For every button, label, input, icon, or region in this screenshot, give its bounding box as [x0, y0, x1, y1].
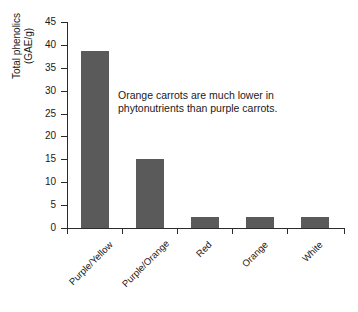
y-tick-mark: [61, 205, 67, 206]
x-axis-label-purple-yellow: Purple/Yellow: [65, 239, 115, 289]
y-tick-label: 0: [28, 223, 56, 233]
y-tick-label: 25: [28, 109, 56, 119]
y-tick-label: 45: [28, 17, 56, 27]
bar-white[interactable]: [301, 217, 329, 228]
bar-purple-orange[interactable]: [136, 159, 164, 228]
x-axis-label-white: White: [285, 239, 325, 279]
bar-purple-yellow[interactable]: [81, 51, 109, 228]
x-tick-mark: [287, 229, 288, 234]
x-axis-label-orange: Orange: [227, 239, 270, 282]
y-tick-label: 5: [28, 200, 56, 210]
chart-annotation-line-1: Orange carrots are much lower in: [118, 89, 328, 102]
x-axis-line: [67, 228, 345, 229]
y-tick-mark: [61, 68, 67, 69]
bar-red[interactable]: [191, 217, 219, 228]
x-axis-label-purple-orange: Purple/Orange: [120, 239, 170, 289]
y-tick-mark: [61, 114, 67, 115]
y-axis-title-line-1: Total phenolics: [11, 13, 23, 79]
y-tick-label: 40: [28, 40, 56, 50]
y-tick-label: 15: [28, 154, 56, 164]
x-tick-mark: [122, 229, 123, 234]
bar-chart: Total phenolics (GAE/g) 0 5 10 15 20 25 …: [0, 0, 358, 312]
y-tick-mark: [61, 91, 67, 92]
bar-orange[interactable]: [246, 217, 274, 228]
y-tick-mark: [61, 136, 67, 137]
y-tick-mark: [61, 159, 67, 160]
y-tick-mark: [61, 182, 67, 183]
y-tick-mark: [61, 45, 67, 46]
y-tick-label: 10: [28, 177, 56, 187]
chart-annotation-line-2: phytonutrients than purple carrots.: [118, 102, 328, 115]
y-tick-mark: [61, 22, 67, 23]
chart-annotation: Orange carrots are much lower in phytonu…: [118, 89, 328, 115]
x-tick-mark: [67, 229, 68, 234]
y-tick-label: 20: [28, 131, 56, 141]
y-axis-line: [67, 22, 68, 229]
y-tick-label: 35: [28, 63, 56, 73]
x-tick-mark: [177, 229, 178, 234]
y-tick-label: 30: [28, 86, 56, 96]
x-tick-mark: [232, 229, 233, 234]
x-tick-mark: [344, 229, 345, 234]
x-axis-label-red: Red: [178, 239, 214, 275]
